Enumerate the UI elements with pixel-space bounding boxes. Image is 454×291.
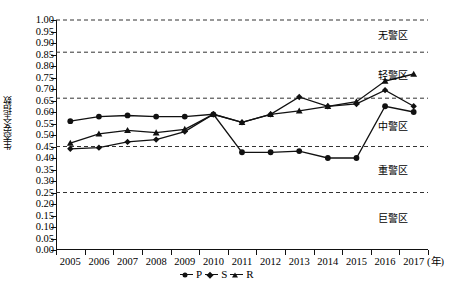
x-tick [399, 250, 400, 255]
x-tick [428, 250, 429, 255]
legend-item-R[interactable]: R [230, 268, 256, 280]
legend-line [180, 274, 193, 275]
x-tick-label: 2013 [283, 256, 315, 267]
data-point [67, 118, 73, 124]
x-tick-label: 2009 [169, 256, 201, 267]
data-point [181, 126, 188, 132]
data-point [296, 94, 302, 100]
x-tick [228, 250, 229, 255]
data-point [325, 155, 331, 161]
x-tick-label: 2005 [54, 256, 86, 267]
zone-label: 巨警区 [378, 213, 408, 224]
series-layer [0, 0, 454, 291]
x-axis-unit: (年) [427, 256, 444, 267]
zone-label: 无警区 [378, 30, 408, 41]
x-tick [256, 250, 257, 255]
legend-label: S [218, 268, 230, 280]
x-tick-label: 2017 [398, 256, 430, 267]
legend-line [205, 274, 218, 275]
data-point [239, 149, 245, 155]
x-tick-label: 2011 [226, 256, 258, 267]
data-point [125, 113, 131, 119]
data-point [296, 148, 302, 154]
x-tick-label: 2016 [369, 256, 401, 267]
diamond-icon [207, 271, 213, 277]
legend-item-P[interactable]: P [180, 268, 205, 280]
data-point [268, 149, 274, 155]
data-point [354, 155, 360, 161]
data-point [382, 103, 388, 109]
x-tick [113, 250, 114, 255]
x-tick [314, 250, 315, 255]
x-tick [371, 250, 372, 255]
x-tick-label: 2007 [112, 256, 144, 267]
ecological-security-index-chart: 生态安全指数 0.000.050.100.150.200.250.300.350… [0, 0, 454, 291]
legend-label: P [193, 268, 205, 280]
x-tick [85, 250, 86, 255]
x-tick [171, 250, 172, 255]
series-line-R [70, 74, 413, 143]
x-tick-label: 2006 [83, 256, 115, 267]
triangle-icon [232, 272, 238, 277]
x-tick [342, 250, 343, 255]
legend-item-S[interactable]: S [205, 268, 230, 280]
data-point [382, 87, 388, 93]
zone-label: 轻警区 [378, 70, 408, 81]
data-point [96, 144, 102, 150]
data-point [353, 98, 360, 104]
x-tick-label: 2008 [140, 256, 172, 267]
x-tick [56, 250, 57, 255]
data-point [411, 109, 417, 115]
zone-label: 中警区 [378, 121, 408, 132]
chart-legend: PSR [180, 268, 257, 280]
x-tick-label: 2012 [255, 256, 287, 267]
x-tick [285, 250, 286, 255]
data-point [182, 114, 188, 120]
data-point [153, 136, 159, 142]
x-tick-label: 2010 [197, 256, 229, 267]
x-tick-label: 2014 [312, 256, 344, 267]
data-point [96, 114, 102, 120]
data-point [124, 139, 130, 145]
x-tick [199, 250, 200, 255]
zone-label: 重警区 [378, 165, 408, 176]
data-point [410, 71, 417, 77]
legend-label: R [243, 268, 256, 280]
x-tick [142, 250, 143, 255]
x-tick-label: 2015 [341, 256, 373, 267]
circle-icon [183, 272, 188, 277]
legend-line [230, 274, 243, 275]
data-point [410, 103, 416, 109]
data-point [153, 114, 159, 120]
